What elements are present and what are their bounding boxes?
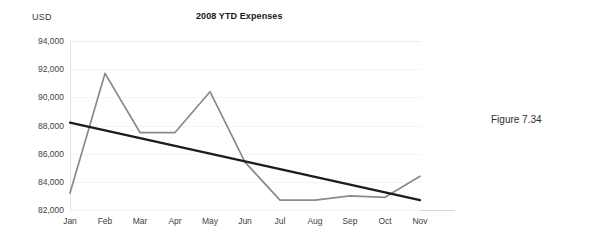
chart-title: 2008 YTD Expenses <box>196 11 283 21</box>
gridline: 84,000 <box>70 182 420 183</box>
x-tick-label: Mar <box>133 216 148 226</box>
y-tick-label: 84,000 <box>38 177 64 187</box>
x-tick-label: Nov <box>412 216 427 226</box>
x-tick-label: Feb <box>98 216 113 226</box>
x-tick-label: Aug <box>307 216 322 226</box>
x-tick-label: Oct <box>378 216 391 226</box>
y-tick-label: 86,000 <box>38 149 64 159</box>
y-tick-label: 94,000 <box>38 36 64 46</box>
x-tick-label: May <box>202 216 218 226</box>
gridline: 90,000 <box>70 97 420 98</box>
x-tick-label: Jul <box>275 216 286 226</box>
gridline: 82,000 <box>70 210 420 211</box>
expenses-line-chart: USD 2008 YTD Expenses 82,00084,00086,000… <box>0 0 460 242</box>
gridline: 92,000 <box>70 69 420 70</box>
chart-screenshot: USD 2008 YTD Expenses 82,00084,00086,000… <box>0 0 606 242</box>
y-tick-label: 82,000 <box>38 205 64 215</box>
plot-area: 82,00084,00086,00088,00090,00092,00094,0… <box>70 41 420 210</box>
figure-caption: Figure 7.34 <box>491 114 542 125</box>
x-tick-label: Jun <box>238 216 252 226</box>
x-tick-label: Sep <box>342 216 357 226</box>
y-tick-label: 92,000 <box>38 64 64 74</box>
y-tick-label: 90,000 <box>38 92 64 102</box>
gridline: 88,000 <box>70 126 420 127</box>
x-tick-label: Apr <box>168 216 181 226</box>
gridline: 94,000 <box>70 41 420 42</box>
y-tick-label: 88,000 <box>38 121 64 131</box>
gridline: 86,000 <box>70 154 420 155</box>
y-axis-unit-label: USD <box>32 12 52 22</box>
x-tick-label: Jan <box>63 216 77 226</box>
